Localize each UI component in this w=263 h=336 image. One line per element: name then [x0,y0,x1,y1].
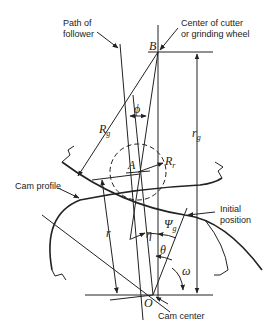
follower-path-line [120,44,143,320]
eta-label: η [146,227,152,241]
path-of-follower-label-2: follower [63,29,94,39]
cam-profile-break-left [52,270,66,280]
cutter-wheel-break-left [62,146,74,162]
cam-diagram: Path of follower Center of cutter or gri… [0,0,263,336]
omega-label: ω [182,264,190,278]
center-cutter-label-1: Center of cutter [181,18,243,28]
theta-label: θ [160,243,166,257]
rg-label: Rg [98,122,110,138]
initial-position-leader [188,212,215,215]
psi-arc [158,234,176,238]
cam-center-label: Cam center [158,311,205,321]
eta-pointer [131,233,145,239]
b-to-contact-line [130,52,158,240]
o-to-a-line [133,95,153,295]
cam-profile-arc [50,178,222,270]
point-b-label: B [149,39,157,53]
point-a-label: A [127,158,136,172]
r-g-label: rg [192,126,201,142]
initial-position-label-1: Initial [220,204,241,214]
center-cutter-label-2: or grinding wheel [181,29,250,39]
rr-label: Rr [164,154,176,170]
follower-leader [97,32,118,48]
path-of-follower-label-1: Path of [63,18,92,28]
r-label: r [106,226,111,240]
psi-g-label: Ψg [164,217,176,233]
cam-profile-leader [58,188,79,198]
point-o-label: O [144,296,153,310]
cam-profile-label: Cam profile [15,181,61,191]
phi-label: ϕ [134,102,140,116]
initial-position-label-2: position [220,215,251,225]
cutter-right-arc [205,220,228,275]
rg-radius-line [78,52,158,176]
r-extension-line [92,174,140,180]
center-cutter-leader [160,28,178,50]
cam-profile-break-right [215,162,223,178]
